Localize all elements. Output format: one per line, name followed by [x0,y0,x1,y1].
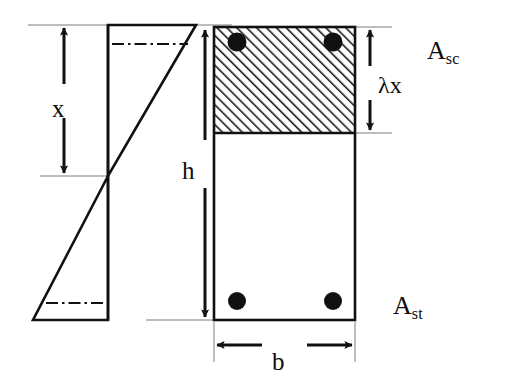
strain-tension-lobe [33,176,108,320]
label-compression-block-depth: λx [378,73,402,97]
label-compression-steel-main: A [427,36,446,65]
rebar-bottom-right [324,292,342,310]
label-neutral-axis-depth: x [52,96,65,121]
label-section-width: b [272,349,285,374]
strain-compression-lobe [108,25,196,176]
beam-strain-figure: x h λx Asc Ast b [0,0,507,386]
label-section-depth: h [182,158,195,183]
label-tension-steel: Ast [393,293,423,319]
strain-distribution-diagram [33,25,196,320]
label-tension-steel-subscript: st [412,305,423,322]
label-compression-steel-subscript: sc [446,50,460,67]
label-compression-steel: Asc [427,38,460,64]
cross-section-group [214,27,355,320]
rebar-top-right [324,33,343,52]
label-tension-steel-main: A [393,291,412,320]
rebar-top-left [228,33,247,52]
rebar-bottom-left [228,292,246,310]
